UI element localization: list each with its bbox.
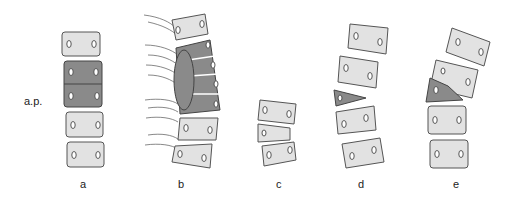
panel-d: [334, 24, 388, 168]
panel-b: [144, 14, 220, 168]
spine-diagram: [0, 0, 509, 211]
panel-a: [62, 32, 104, 167]
panel-e: [426, 28, 490, 168]
panel-c: [258, 100, 296, 166]
